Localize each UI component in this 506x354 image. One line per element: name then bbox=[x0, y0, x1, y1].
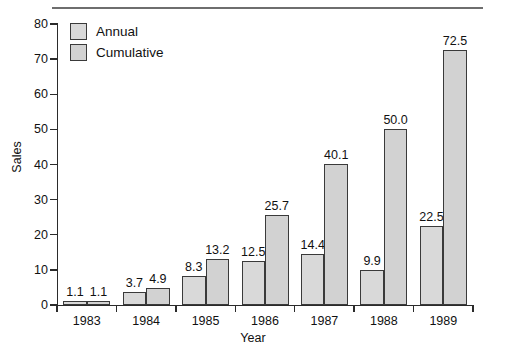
bar-cumulative bbox=[324, 164, 348, 305]
legend-label: Annual bbox=[96, 24, 138, 39]
x-axis-title: Year bbox=[0, 331, 506, 345]
bar-value-label: 25.7 bbox=[250, 199, 304, 213]
legend-swatch bbox=[70, 23, 87, 40]
bar-annual bbox=[63, 301, 87, 305]
y-axis-tick-label-text: 10 bbox=[6, 264, 48, 276]
bar-value-label: 40.1 bbox=[309, 148, 363, 162]
bar-annual bbox=[182, 276, 206, 305]
x-axis-line bbox=[57, 305, 473, 306]
y-axis-tick-label-text: 60 bbox=[6, 88, 48, 100]
x-axis-tick bbox=[235, 305, 236, 312]
y-axis-tick-label: 10 bbox=[0, 264, 58, 276]
y-axis-tick-label: 60 bbox=[0, 88, 58, 100]
bar-annual bbox=[301, 254, 325, 305]
bar-value-label: 4.9 bbox=[131, 272, 185, 286]
bar-value-label: 72.5 bbox=[428, 34, 482, 48]
bar-cumulative bbox=[146, 288, 170, 305]
bar-annual bbox=[123, 292, 147, 305]
top-horizontal-rule bbox=[52, 7, 483, 9]
bar-cumulative bbox=[87, 301, 111, 305]
legend-label: Cumulative bbox=[96, 45, 164, 60]
x-axis-tick bbox=[116, 305, 117, 312]
bar-cumulative bbox=[265, 215, 289, 305]
y-axis-tick-label: 40 bbox=[0, 159, 58, 171]
x-axis-tick-label: 1989 bbox=[408, 314, 478, 328]
y-axis-tick-label-text: 0 bbox=[6, 299, 48, 311]
x-axis-tick bbox=[56, 305, 57, 312]
bar-annual bbox=[360, 270, 384, 305]
y-axis-tick-label: 20 bbox=[0, 229, 58, 241]
x-axis-tick bbox=[353, 305, 354, 312]
bar-cumulative bbox=[443, 50, 467, 305]
bar-chart-figure: 01020304050607080 Sales 1983198419851986… bbox=[0, 0, 506, 354]
y-axis-title: Sales bbox=[10, 127, 24, 187]
x-axis-tick bbox=[413, 305, 414, 312]
x-axis-tick bbox=[472, 305, 473, 312]
y-axis-tick-label-text: 30 bbox=[6, 194, 48, 206]
y-axis-tick-label: 50 bbox=[0, 123, 58, 135]
bar-annual bbox=[242, 261, 266, 305]
bar-value-label: 50.0 bbox=[369, 113, 423, 127]
x-axis-tick bbox=[175, 305, 176, 312]
y-axis-tick-label: 70 bbox=[0, 53, 58, 65]
y-axis-tick-label-text: 20 bbox=[6, 229, 48, 241]
legend-swatch bbox=[70, 44, 87, 61]
y-axis-tick-label-text: 70 bbox=[6, 53, 48, 65]
y-axis-tick-label: 30 bbox=[0, 194, 58, 206]
bar-cumulative bbox=[206, 259, 230, 305]
y-axis-tick-label: 80 bbox=[0, 18, 58, 30]
y-axis-tick-label: 0 bbox=[0, 299, 58, 311]
y-axis-tick-label-text: 80 bbox=[6, 18, 48, 30]
x-axis-tick bbox=[294, 305, 295, 312]
bar-annual bbox=[420, 226, 444, 305]
